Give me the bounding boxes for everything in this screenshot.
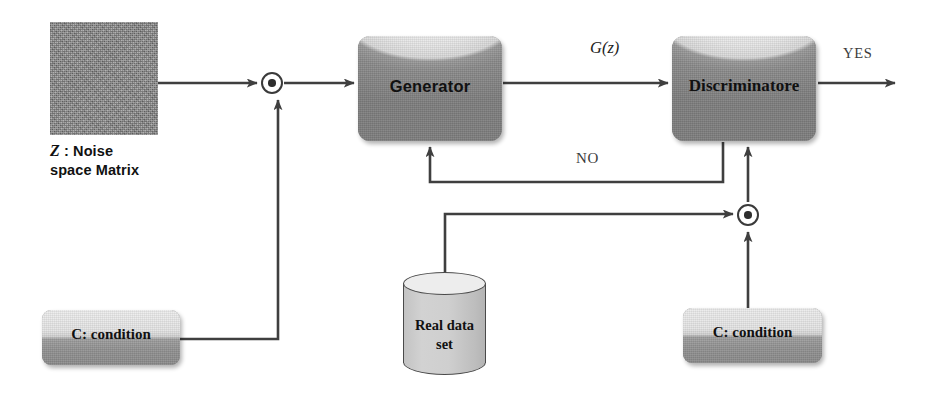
negative-feedback-label: NO [576, 150, 599, 167]
real-dataset-label: Real data set [403, 316, 486, 354]
wire-dataset-to-combine [445, 214, 733, 274]
condition-right-label: C: condition [683, 324, 822, 341]
condition-block-left[interactable]: C: condition [42, 310, 180, 365]
generator-label: Generator [358, 77, 502, 96]
combine-node-discriminator-input[interactable] [737, 204, 759, 226]
combine-dot-icon [268, 79, 276, 87]
positive-output-label: YES [843, 45, 873, 62]
gan-architecture-diagram: Z : Noise space Matrix Generator Discrim… [0, 0, 944, 404]
condition-left-label: C: condition [42, 326, 180, 343]
combine-dot-icon [744, 211, 752, 219]
generator-output-label: G(z) [590, 38, 619, 58]
generator-block[interactable]: Generator [358, 36, 502, 141]
real-dataset-cylinder[interactable]: Real data set [403, 272, 486, 378]
discriminator-label: Discriminatore [672, 76, 816, 96]
wire-condition-left-to-combine [180, 100, 278, 339]
noise-space-matrix-caption: Z : Noise space Matrix [50, 141, 200, 180]
noise-caption-line2: space Matrix [50, 162, 139, 178]
noise-symbol-z: Z [50, 142, 60, 159]
noise-caption-line1: : Noise [60, 143, 113, 159]
discriminator-block[interactable]: Discriminatore [672, 36, 816, 141]
noise-space-matrix-image [50, 22, 158, 135]
cylinder-top-ellipse [403, 272, 486, 295]
condition-block-right[interactable]: C: condition [683, 308, 822, 363]
real-dataset-label-line2: set [436, 336, 453, 352]
real-dataset-label-line1: Real data [415, 317, 474, 333]
combine-node-generator-input[interactable] [261, 72, 283, 94]
